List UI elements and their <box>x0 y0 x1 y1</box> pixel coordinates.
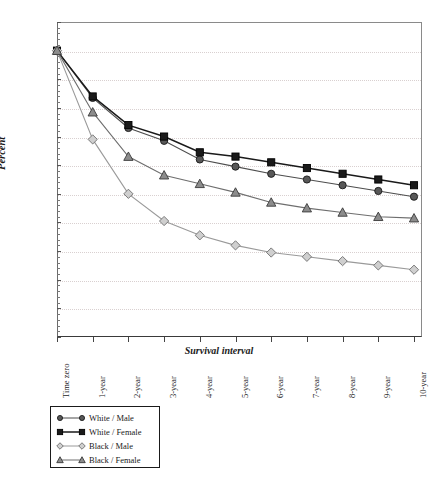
y-minor-tick <box>57 171 60 172</box>
y-minor-tick <box>57 114 60 115</box>
legend-item: Black / Male <box>56 439 159 453</box>
data-point-circle <box>57 415 62 420</box>
y-tick-mark <box>57 51 61 52</box>
x-tick-mark <box>236 337 237 342</box>
gridline <box>58 109 421 110</box>
y-axis-title: Percent <box>0 137 7 170</box>
x-tick-label: 8-year <box>347 376 357 398</box>
y-minor-tick <box>57 96 60 97</box>
y-tick-mark <box>57 251 61 252</box>
y-minor-tick <box>57 45 60 46</box>
y-minor-tick <box>57 125 60 126</box>
plot-area <box>57 22 422 337</box>
legend-label: White / Male <box>89 413 134 423</box>
x-tick-mark <box>200 337 201 342</box>
x-tick-mark <box>378 337 379 342</box>
y-minor-tick <box>57 257 60 258</box>
x-tick-label: Time zero <box>61 364 71 398</box>
gridline <box>58 281 421 282</box>
legend-item: White / Female <box>56 425 159 439</box>
y-minor-tick <box>57 39 60 40</box>
x-tick-mark <box>271 337 272 342</box>
y-minor-tick <box>57 263 60 264</box>
gridline <box>58 195 421 196</box>
y-minor-tick <box>57 159 60 160</box>
x-axis-title: Survival interval <box>0 345 438 356</box>
x-tick-label: 7-year <box>311 376 321 398</box>
y-minor-tick <box>57 228 60 229</box>
y-minor-tick <box>57 148 60 149</box>
y-minor-tick <box>57 285 60 286</box>
y-minor-tick <box>57 62 60 63</box>
x-tick-mark <box>414 337 415 342</box>
data-point-diamond <box>57 443 64 450</box>
y-minor-tick <box>57 326 60 327</box>
y-tick-mark <box>57 137 61 138</box>
legend-label: White / Female <box>89 427 141 437</box>
y-minor-tick <box>57 274 60 275</box>
x-tick-mark <box>164 337 165 342</box>
y-minor-tick <box>57 234 60 235</box>
y-minor-tick <box>57 297 60 298</box>
y-tick-mark <box>57 280 61 281</box>
gridline <box>58 138 421 139</box>
legend-item: White / Male <box>56 411 159 425</box>
data-point-square <box>57 429 62 434</box>
y-minor-tick <box>57 85 60 86</box>
gridline <box>58 52 421 53</box>
y-minor-tick <box>57 102 60 103</box>
x-tick-label: 6-year <box>275 376 285 398</box>
y-minor-tick <box>57 68 60 69</box>
x-tick-label: 1-year <box>97 376 107 398</box>
x-tick-label: 4-year <box>204 376 214 398</box>
y-minor-tick <box>57 217 60 218</box>
y-tick-mark <box>57 165 61 166</box>
data-point-circle <box>79 415 84 420</box>
x-tick-mark <box>128 337 129 342</box>
legend-label: Black / Female <box>89 455 140 465</box>
y-minor-tick <box>57 74 60 75</box>
y-minor-tick <box>57 245 60 246</box>
y-tick-mark <box>57 194 61 195</box>
y-tick-mark <box>57 222 61 223</box>
gridline <box>58 309 421 310</box>
y-minor-tick <box>57 268 60 269</box>
y-minor-tick <box>57 56 60 57</box>
gridline <box>58 166 421 167</box>
y-minor-tick <box>57 182 60 183</box>
y-minor-tick <box>57 131 60 132</box>
y-minor-tick <box>57 28 60 29</box>
legend-marker-circle-icon <box>56 411 86 425</box>
y-minor-tick <box>57 331 60 332</box>
y-tick-mark <box>57 108 61 109</box>
x-tick-label: 5-year <box>240 376 250 398</box>
gridline <box>58 223 421 224</box>
y-minor-tick <box>57 314 60 315</box>
legend: White / MaleWhite / FemaleBlack / MaleBl… <box>50 406 160 468</box>
gridline <box>58 252 421 253</box>
y-minor-tick <box>57 320 60 321</box>
x-tick-mark <box>57 337 58 342</box>
y-minor-tick <box>57 142 60 143</box>
y-minor-tick <box>57 188 60 189</box>
data-point-square <box>79 429 84 434</box>
y-tick-mark <box>57 79 61 80</box>
y-minor-tick <box>57 177 60 178</box>
y-minor-tick <box>57 205 60 206</box>
legend-marker-square-icon <box>56 425 86 439</box>
y-minor-tick <box>57 91 60 92</box>
y-minor-tick <box>57 119 60 120</box>
y-minor-tick <box>57 291 60 292</box>
legend-marker-triangle-icon <box>56 453 86 467</box>
y-minor-tick <box>57 303 60 304</box>
x-tick-label: 9-year <box>382 376 392 398</box>
y-tick-mark <box>57 308 61 309</box>
chart-container: Percent Survival interval 01020304050607… <box>0 0 438 482</box>
y-minor-tick <box>57 200 60 201</box>
legend-label: Black / Male <box>89 441 133 451</box>
y-minor-tick <box>57 211 60 212</box>
x-tick-label: 2-year <box>132 376 142 398</box>
data-point-diamond <box>79 443 86 450</box>
x-tick-label: 3-year <box>168 376 178 398</box>
y-minor-tick <box>57 154 60 155</box>
